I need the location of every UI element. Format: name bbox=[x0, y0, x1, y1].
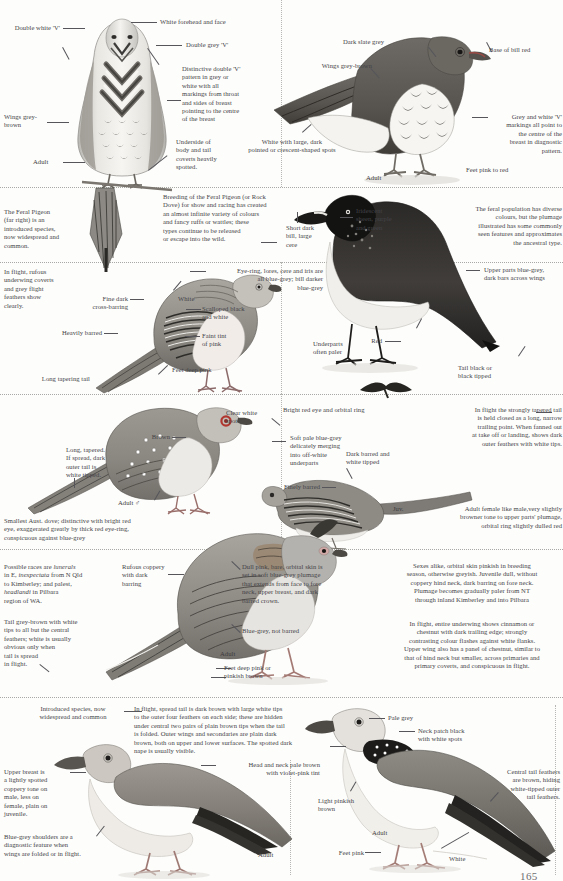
leader-adult-front bbox=[63, 162, 85, 163]
caption-feral-population-diverse: The feral population has diverse colours… bbox=[438, 205, 562, 247]
leader-upper-parts-blue-grey bbox=[466, 270, 480, 271]
caption-feet-pink-to-red: Feet pink to red bbox=[466, 166, 550, 174]
caption-blue-grey-not-barred: Blue-grey, not barred bbox=[242, 627, 338, 635]
leader-double-white-v bbox=[63, 28, 85, 29]
page-number: 165 bbox=[520, 870, 538, 881]
caption-upper-parts-blue-grey: Upper parts blue-grey, dark bars across … bbox=[484, 266, 563, 283]
caption-adult-female-like-male: Adult female like male,very slightly bro… bbox=[418, 505, 562, 530]
caption-distinctive-double-v: Distinctive double 'V' pattern in grey o… bbox=[182, 65, 278, 124]
leader-pale-grey bbox=[369, 718, 385, 719]
caption-eye-ring-lores-cere-iris: Eye-ring, lores, cere and iris are all b… bbox=[207, 267, 323, 292]
caption-sexes-alike-orbital-skin: Sexes alike, orbital skin pinkish in bre… bbox=[382, 562, 562, 604]
leader-head-and-neck bbox=[201, 765, 216, 766]
leader-fine-dark-cross-barring bbox=[130, 299, 144, 300]
caption-light-pinkish-brown: Light pinkish brown bbox=[318, 797, 372, 814]
leader-tail-black bbox=[518, 346, 526, 357]
caption-breeding-of-feral-pigeon: Breeding of the Feral Pigeon (or Rock Do… bbox=[163, 193, 283, 243]
leader-red-feet bbox=[385, 341, 401, 342]
leader-wings-grey-brown bbox=[47, 122, 69, 123]
caption-grey-white-v-markings: Grey and white 'V' markings all point to… bbox=[480, 113, 562, 155]
caption-bright-red-eye: Bright red eye and orbital ring bbox=[283, 406, 411, 414]
caption-brown: Brown bbox=[120, 433, 170, 441]
leader-heavily-barred bbox=[104, 333, 118, 334]
caption-red-feet: Red bbox=[346, 337, 382, 345]
caption-feet-deep-pink-pinkish-brown: Feet deep pink or pinkish brown bbox=[224, 664, 316, 681]
caption-wings-grey-brown-right: Wings grey-brown bbox=[276, 62, 372, 70]
caption-head-and-neck-pale-brown: Head and neck pale brown with violet-pin… bbox=[216, 761, 320, 778]
caption-rufous-coppery: Rufous coppery with dark barring bbox=[122, 563, 182, 588]
caption-neck-patch-black: Neck patch black with white spots bbox=[418, 727, 502, 744]
caption-clear-white-spots: Clear white spots bbox=[226, 409, 280, 426]
caption-long-tapered: Long, tapered. If spread, dark outer tai… bbox=[66, 446, 138, 480]
leader-neck-patch-black bbox=[399, 731, 415, 732]
caption-dark-slate-grey: Dark slate grey bbox=[343, 38, 431, 46]
caption-short-dark-bill: Short dark bill, large cere bbox=[286, 224, 330, 249]
caption-scalloped-black-and-white: Scalloped black and white bbox=[202, 305, 278, 322]
caption-finely-barred: Finely barred bbox=[262, 483, 320, 491]
diamond-dove-flight-silhouette bbox=[358, 380, 414, 400]
caption-feet-deep-pink: Feet deep pink bbox=[172, 366, 238, 374]
caption-in-flight-underwing-cinnamon: In flight, entire underwing shows cinnam… bbox=[382, 620, 562, 670]
caption-fine-dark-cross-barring: Fine dark cross-barring bbox=[62, 295, 128, 312]
caption-heavily-barred: Heavily barred bbox=[36, 329, 102, 337]
leader-feet-pink bbox=[365, 852, 381, 853]
label-adult-turtle-right: Adult bbox=[372, 829, 387, 837]
caption-white-throat: White bbox=[178, 295, 218, 303]
field-guide-page: White forehead and face Double grey 'V' … bbox=[0, 0, 563, 881]
leader-finely-barred bbox=[322, 487, 336, 488]
caption-central-tail-leathers: Central tail feathers are brown, hiding … bbox=[456, 768, 560, 802]
caption-upper-breast-lightly-spotted: Upper breast is a lightly spotted copper… bbox=[4, 768, 70, 818]
leader-iridescent-sheen bbox=[340, 217, 353, 218]
caption-blue-grey-shoulders: Blue-grey shoulders are a diagnostic fea… bbox=[4, 833, 96, 858]
caption-long-tapering-tail: Long tapering tail bbox=[4, 375, 90, 383]
caption-tail-grey-brown-white-tips: Tail grey-brown with white tips to all b… bbox=[4, 618, 108, 668]
caption-white-crescent-spots: White with large, dark pointed or cresce… bbox=[238, 138, 346, 155]
caption-pale-grey: Pale grey bbox=[388, 714, 444, 722]
leader-scalloped-black-white bbox=[186, 309, 201, 310]
leader-white-forehead bbox=[131, 22, 157, 23]
caption-base-of-bill-red: Base of bill red bbox=[489, 46, 563, 54]
caption-possible-races: Possible races are luneralsin E, inexpec… bbox=[4, 563, 108, 605]
leader-soft-pale-blue-grey bbox=[272, 441, 286, 442]
topknot-pigeon-front-illustration bbox=[62, 12, 182, 190]
caption-tail-black-or-tipped: Tail black or black tipped bbox=[458, 364, 534, 381]
caption-feet-pink: Feet pink bbox=[318, 849, 364, 857]
caption-in-flight-tapered-tail: In flight the strongly tapered tail is h… bbox=[430, 406, 562, 448]
caption-white-forehead-and-face: White forehead and face bbox=[160, 18, 276, 26]
caption-double-grey-v: Double grey 'V' bbox=[186, 41, 282, 49]
possible-races-text: Possible races are luneralsin E, inexpec… bbox=[4, 563, 82, 604]
label-adult-male: Adult ♂ bbox=[118, 499, 140, 507]
caption-wings-grey-brown-left: Wings grey- brown bbox=[4, 113, 48, 130]
caption-white-undertail: White bbox=[449, 855, 489, 863]
label-adult-crested: Adult bbox=[220, 650, 235, 658]
leader-eye-ring-lores bbox=[190, 271, 206, 272]
caption-dark-barred-white-tipped: Dark barred and white tipped bbox=[346, 450, 420, 467]
label-adult-side: Adult bbox=[366, 174, 381, 182]
leader-brown bbox=[172, 437, 186, 438]
caption-introduced-species: Introduced species, now widespread and c… bbox=[18, 705, 128, 722]
caption-faint-tint-of-pink: Faint tint of pink bbox=[202, 332, 256, 349]
label-adult-front: Adult bbox=[33, 158, 48, 166]
leader-distinctive-v bbox=[167, 100, 181, 101]
leader-double-grey-v bbox=[156, 45, 182, 46]
panel-divider-5 bbox=[0, 697, 563, 698]
leader-short-dark-bill bbox=[297, 212, 298, 223]
caption-in-flight-spread-tail: In flight, spread tail is dark brown wit… bbox=[134, 705, 330, 755]
caption-double-white-v: Double white 'V' bbox=[2, 24, 60, 32]
leader-upper-breast bbox=[70, 772, 86, 773]
leader-spotted-dark-nape bbox=[330, 746, 346, 747]
label-juv: Juv. bbox=[393, 505, 404, 513]
caption-feral-pigeon-introduced: The Feral Pigeon (far right) is an intro… bbox=[4, 208, 88, 250]
caption-iridescent-sheen: Iridescent sheen, purple and green bbox=[356, 207, 418, 232]
caption-dull-pink-bare-orbital: Dull pink, bare, orbital skin is set in … bbox=[242, 563, 348, 605]
leader-faint-tint-pink bbox=[185, 336, 200, 337]
label-adult-turtle-left: Adult bbox=[258, 851, 273, 859]
